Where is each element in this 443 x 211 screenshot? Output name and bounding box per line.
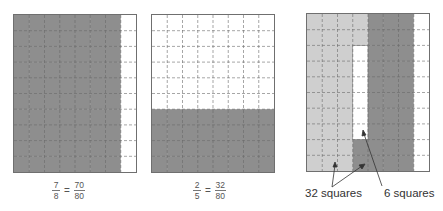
annotation-arrows (0, 0, 443, 211)
annotation-6-squares: 6 squares (384, 187, 435, 199)
annotation-32-squares: 32 squares (305, 187, 362, 199)
